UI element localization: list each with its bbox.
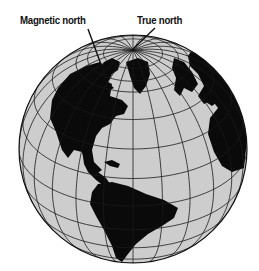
globe-diagram [0, 0, 259, 271]
